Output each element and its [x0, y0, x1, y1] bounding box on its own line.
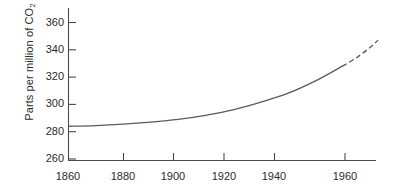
- co2-line-chart: Parts per million of CO2 360 340 320 300…: [0, 0, 397, 195]
- y-axis-ticks: [69, 23, 77, 160]
- co2-dashed-line: [342, 40, 378, 66]
- x-axis-ticks: [124, 153, 346, 161]
- co2-solid-line: [69, 66, 343, 126]
- plot-area: [0, 0, 397, 195]
